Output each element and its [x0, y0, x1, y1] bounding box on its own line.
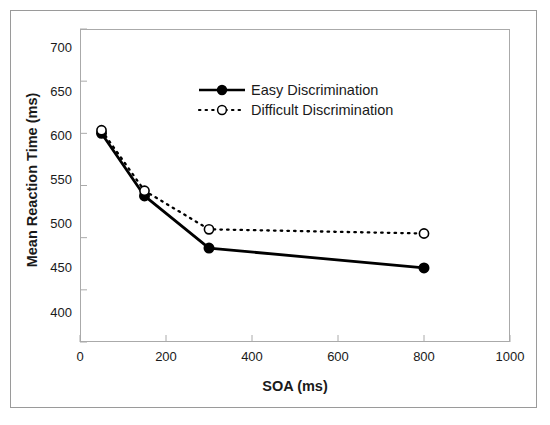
legend-label-easy: Easy Discrimination — [247, 82, 378, 98]
legend-sample-solid-filled-circle-icon — [197, 82, 247, 98]
series-easy — [97, 129, 429, 273]
x-tick-label: 800 — [394, 350, 454, 364]
series-line — [102, 133, 425, 268]
legend-item-easy: Easy Discrimination — [197, 80, 447, 100]
x-tick-label: 1000 — [480, 350, 540, 364]
data-point-marker — [419, 263, 428, 272]
figure-root: Mean Reaction Time (ms) 700 650 600 550 … — [0, 0, 550, 425]
legend-sample-dotted-open-circle-icon — [197, 102, 247, 118]
series-difficult — [97, 126, 429, 238]
data-series-layer — [97, 126, 429, 273]
x-tick-label: 200 — [136, 350, 196, 364]
data-point-marker — [97, 126, 106, 135]
data-point-marker — [204, 244, 213, 253]
y-tick-label: 500 — [32, 217, 72, 231]
data-point-marker — [140, 186, 149, 195]
y-tick-label: 400 — [32, 306, 72, 320]
data-point-marker — [419, 229, 428, 238]
legend-item-difficult: Difficult Discrimination — [197, 100, 447, 120]
x-tick-label: 600 — [308, 350, 368, 364]
series-line — [102, 130, 425, 233]
legend: Easy Discrimination Difficult Discrimina… — [197, 80, 447, 120]
y-tick-label: 700 — [32, 41, 72, 55]
y-tick-label: 600 — [32, 129, 72, 143]
y-tick-label: 650 — [32, 85, 72, 99]
y-tick-label: 450 — [32, 261, 72, 275]
x-axis-tick-labels: 0 200 400 600 800 1000 — [0, 350, 550, 370]
x-axis-title: SOA (ms) — [80, 378, 510, 394]
x-tick-label: 400 — [222, 350, 282, 364]
data-point-marker — [204, 225, 213, 234]
x-tick-label: 0 — [50, 350, 110, 364]
legend-label-difficult: Difficult Discrimination — [247, 102, 393, 118]
y-tick-label: 550 — [32, 173, 72, 187]
plot-canvas — [80, 29, 510, 342]
